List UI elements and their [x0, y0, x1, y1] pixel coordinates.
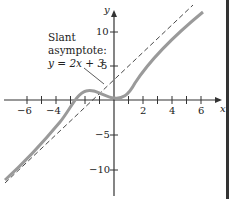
y-tick-label: −5	[95, 130, 110, 140]
annotation-line: Slant	[48, 31, 107, 44]
annotation-line: asymptote:	[48, 44, 107, 57]
y-axis-label: y	[104, 5, 110, 15]
x-tick-label: 2	[140, 106, 146, 116]
y-axis-arrow	[111, 10, 117, 17]
x-tick-label: 4	[169, 106, 175, 116]
x-tick-label: −6	[17, 106, 32, 116]
x-tick-label: −4	[46, 106, 61, 116]
y-tick-label: −10	[89, 165, 110, 175]
asymptote-annotation: Slant asymptote: y = 2x + 3	[48, 31, 107, 70]
right-border	[226, 0, 229, 199]
graph	[0, 0, 229, 199]
x-tick-label: 6	[198, 106, 204, 116]
annotation-equation: y = 2x + 3	[48, 57, 107, 70]
x-axis-label: x	[220, 104, 226, 114]
